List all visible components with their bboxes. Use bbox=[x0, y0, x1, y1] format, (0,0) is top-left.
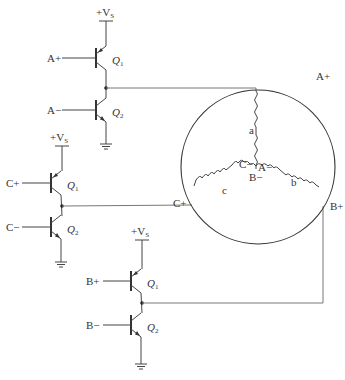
label-q2-c: Q2 bbox=[67, 223, 79, 237]
terminal-b-plus: B+ bbox=[330, 200, 344, 212]
label-q1-b: Q1 bbox=[147, 277, 159, 291]
winding-a bbox=[255, 91, 258, 169]
winding-label-b: b bbox=[291, 176, 297, 188]
label-q2-b: Q2 bbox=[147, 321, 159, 335]
input-b-minus: B− bbox=[86, 319, 100, 331]
schematic: +VS A+ Q1 A− Q2 +VS C+ Q1 C− Q2 bbox=[0, 0, 345, 380]
input-c-plus: C+ bbox=[6, 177, 20, 189]
input-b-plus: B+ bbox=[86, 275, 100, 287]
half-bridge-b: +VS B+ Q1 B− Q2 bbox=[86, 206, 323, 369]
supply-label-c: +VS bbox=[50, 131, 68, 145]
input-a-plus: A+ bbox=[47, 52, 61, 64]
terminal-b-minus: B− bbox=[249, 171, 263, 183]
winding-label-c: c bbox=[222, 184, 227, 196]
terminal-c-minus: C− bbox=[239, 158, 253, 170]
circuit-diagram: +VS A+ Q1 A− Q2 +VS C+ Q1 C− Q2 bbox=[0, 0, 345, 380]
input-a-minus: A− bbox=[47, 104, 61, 116]
winding-label-a: a bbox=[249, 124, 254, 136]
input-c-minus: C− bbox=[6, 221, 20, 233]
half-bridge-a: +VS A+ Q1 A− Q2 bbox=[47, 6, 256, 149]
label-q2-a: Q2 bbox=[112, 106, 124, 120]
supply-label-a: +VS bbox=[96, 6, 114, 20]
motor: A+ B+ C+ A− B− C− a b c bbox=[173, 70, 344, 244]
terminal-a-plus: A+ bbox=[316, 70, 330, 82]
label-q1-c: Q1 bbox=[67, 179, 79, 193]
half-bridge-c: +VS C+ Q1 C− Q2 bbox=[6, 131, 192, 267]
label-q1-a: Q1 bbox=[112, 54, 124, 68]
wire-a-plus bbox=[106, 88, 256, 91]
terminal-c-plus: C+ bbox=[173, 197, 187, 209]
supply-label-b: +VS bbox=[131, 225, 149, 239]
wire-b-plus bbox=[142, 206, 323, 303]
